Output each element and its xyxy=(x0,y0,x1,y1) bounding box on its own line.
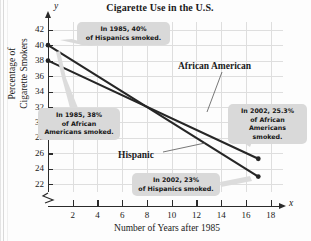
data-point-marker xyxy=(46,58,51,63)
series-label-hispanic: Hispanic xyxy=(118,150,154,160)
callout-line-2: of African xyxy=(43,120,115,129)
callout-line-1: In 2002, 25.3% xyxy=(233,107,302,116)
callout-line-2: of Hispanics smoked. xyxy=(137,185,215,194)
callout-african-american-2002: In 2002, 25.3% of African Americans smok… xyxy=(228,104,307,144)
callout-line-3: Americans smoked. xyxy=(233,124,302,141)
data-point-marker xyxy=(256,174,261,179)
chart-figure: Cigarette Use in the U.S. y x 2224262830… xyxy=(0,0,311,241)
leader-line-african-american-label xyxy=(207,72,222,112)
leader-hispanic-2002 xyxy=(220,176,252,187)
callout-hispanic-2002: In 2002, 23% of Hispanics smoked. xyxy=(132,173,220,196)
callout-line-3: Americans smoked. xyxy=(43,128,115,137)
series-label-african-american: African American xyxy=(178,61,251,71)
callout-hispanic-1985: In 1985, 40% of Hispanics smoked. xyxy=(77,22,170,45)
leader-line-hispanic-label xyxy=(163,143,205,152)
leader-african-american-1985 xyxy=(56,51,78,108)
y-axis-break-symbol xyxy=(43,193,53,203)
callout-line-1: In 1985, 40% xyxy=(82,25,165,34)
callout-line-2: of Hispanics smoked. xyxy=(82,34,165,43)
callout-line-2: of African xyxy=(233,116,302,125)
data-point-marker xyxy=(256,156,261,161)
callout-african-american-1985: In 1985, 38% of African Americans smoked… xyxy=(38,108,120,140)
callout-line-1: In 2002, 23% xyxy=(137,176,215,185)
data-point-marker xyxy=(46,43,51,48)
callout-line-1: In 1985, 38% xyxy=(43,111,115,120)
